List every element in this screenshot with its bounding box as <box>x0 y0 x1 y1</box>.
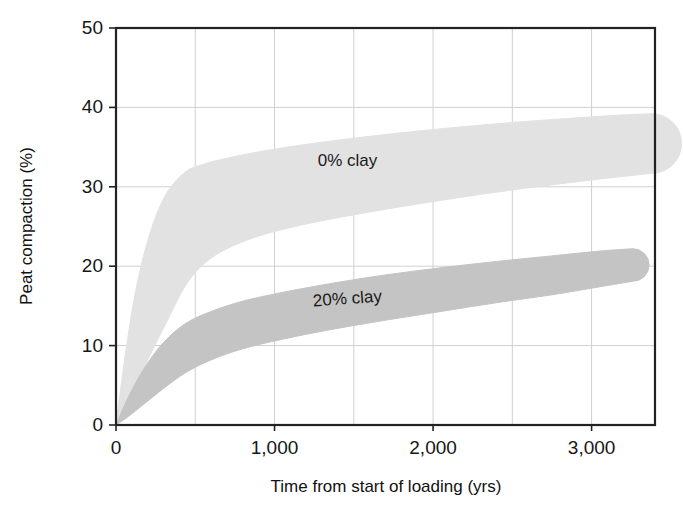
peat-compaction-chart: 0% clay20% clay 01,0002,0003,000 0102030… <box>0 0 683 512</box>
y-tick-label: 40 <box>82 96 103 117</box>
y-tick-label: 0 <box>92 414 103 435</box>
chart-figure: 0% clay20% clay 01,0002,0003,000 0102030… <box>0 0 683 512</box>
x-axis-title: Time from start of loading (yrs) <box>271 477 502 496</box>
y-tick-label: 50 <box>82 17 103 38</box>
y-tick-label: 30 <box>82 176 103 197</box>
y-axis-title: Peat compaction (%) <box>17 147 36 305</box>
x-tick-label: 0 <box>111 437 122 458</box>
x-tick-label: 2,000 <box>409 437 457 458</box>
x-tick-label: 1,000 <box>251 437 299 458</box>
series-label-0-clay: 0% clay <box>318 151 378 170</box>
x-tick-label: 3,000 <box>568 437 616 458</box>
y-tick-label: 20 <box>82 255 103 276</box>
y-tick-label: 10 <box>82 335 103 356</box>
